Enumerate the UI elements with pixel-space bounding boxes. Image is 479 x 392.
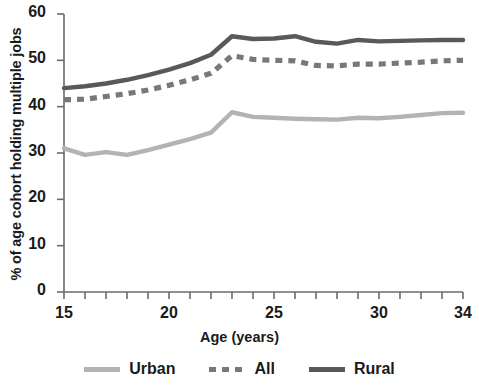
legend-item-rural[interactable]: Rural — [309, 360, 395, 378]
y-tick-label: 0 — [12, 281, 46, 299]
x-tick-label: 34 — [443, 304, 479, 322]
chart-figure: % of age cohort holding multiple jobs Ag… — [0, 0, 479, 392]
series-line-urban — [64, 112, 463, 155]
x-axis-title: Age (years) — [0, 329, 479, 345]
chart-legend: UrbanAllRural — [0, 360, 479, 378]
x-tick-label: 30 — [359, 304, 399, 322]
y-tick-label: 50 — [12, 49, 46, 67]
y-tick-label: 40 — [12, 96, 46, 114]
y-tick-label: 20 — [12, 188, 46, 206]
legend-swatch-rural — [309, 367, 345, 372]
series-line-all — [64, 56, 463, 100]
x-tick-label: 20 — [149, 304, 189, 322]
legend-label-urban: Urban — [129, 360, 175, 378]
x-tick-label: 25 — [254, 304, 294, 322]
legend-label-rural: Rural — [354, 360, 395, 378]
x-tick-label: 15 — [44, 304, 84, 322]
y-tick-label: 10 — [12, 235, 46, 253]
legend-swatch-all — [209, 367, 245, 372]
legend-label-all: All — [254, 360, 274, 378]
y-tick-label: 30 — [12, 142, 46, 160]
y-tick-label: 60 — [12, 3, 46, 21]
legend-item-urban[interactable]: Urban — [84, 360, 175, 378]
legend-item-all[interactable]: All — [209, 360, 274, 378]
legend-swatch-urban — [84, 367, 120, 372]
